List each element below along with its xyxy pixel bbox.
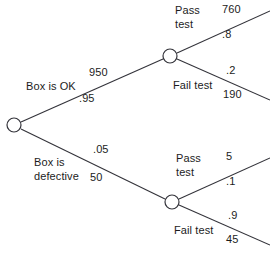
probability-branch-defective-pass-test: .1	[226, 175, 235, 188]
label-branch-defective-fail-test: Fail test	[174, 224, 213, 237]
value-branch-box-is-ok: 950	[89, 66, 108, 79]
label-branch-ok-pass-test-line2: test	[175, 18, 193, 30]
value-branch-ok-fail-test: 190	[223, 88, 242, 101]
label-branch-defective-pass-test-line1: Pass	[176, 152, 201, 164]
box-ok-chance-node	[163, 49, 177, 63]
probability-branch-defective-fail-test: .9	[228, 209, 237, 222]
decision-tree-diagram: Box is OK 950 .95 Box is defective 50 .0…	[0, 0, 270, 257]
label-branch-box-is-defective-line1: Box is	[34, 156, 65, 168]
label-branch-ok-pass-test-line1: Pass	[175, 4, 200, 16]
value-branch-defective-pass-test: 5	[226, 150, 232, 163]
probability-branch-box-is-defective: .05	[93, 143, 109, 156]
root-chance-node	[7, 118, 21, 132]
label-branch-box-is-ok: Box is OK	[26, 80, 76, 93]
label-branch-defective-pass-test: Pass test	[176, 152, 216, 179]
label-branch-box-is-defective-line2: defective	[34, 170, 79, 182]
label-branch-defective-pass-test-line2: test	[176, 166, 194, 178]
label-branch-ok-pass-test: Pass test	[175, 4, 215, 31]
box-defective-chance-node	[165, 195, 179, 209]
probability-branch-ok-pass-test: .8	[222, 28, 231, 41]
label-branch-box-is-defective: Box is defective	[34, 156, 94, 183]
label-branch-ok-fail-test: Fail test	[173, 79, 212, 92]
probability-branch-box-is-ok: .95	[79, 92, 95, 105]
value-branch-box-is-defective: 50	[90, 171, 102, 184]
value-branch-defective-fail-test: 45	[226, 233, 238, 246]
probability-branch-ok-fail-test: .2	[226, 64, 235, 77]
value-branch-ok-pass-test: 760	[222, 3, 241, 16]
